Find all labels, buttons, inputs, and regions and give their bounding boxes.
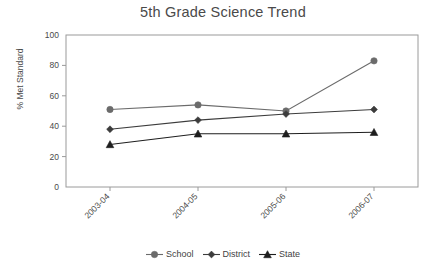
y-axis-ticks: 100806040200 — [45, 30, 66, 192]
circle-marker — [371, 58, 377, 64]
series-layer — [106, 58, 378, 148]
x-tick-label: 2003-04 — [82, 191, 111, 220]
data-point-circle — [151, 251, 157, 257]
y-tick-label: 40 — [50, 121, 60, 131]
legend-swatch-diamond-icon — [203, 250, 220, 259]
series-state — [106, 128, 378, 147]
y-tick-label: 0 — [54, 182, 59, 192]
data-point-diamond — [107, 126, 114, 133]
x-tick-label: 2005-06 — [258, 191, 287, 220]
series-school — [107, 58, 377, 115]
legend-swatch-circle-icon — [146, 250, 163, 259]
plot-frame — [66, 35, 418, 187]
legend-label: District — [223, 249, 251, 259]
chart-container: 5th Grade Science Trend % Met Standard 1… — [0, 0, 446, 273]
x-tick-label: 2006-07 — [346, 191, 375, 220]
legend-item-state[interactable]: State — [259, 249, 300, 259]
plot-area: 100806040200 2003-042004-052005-062006-0… — [0, 0, 446, 273]
y-tick-label: 100 — [45, 30, 59, 40]
y-tick-label: 80 — [50, 60, 60, 70]
circle-marker — [151, 251, 157, 257]
x-axis-tick-labels: 2003-042004-052005-062006-07 — [82, 191, 375, 220]
series-line — [110, 132, 374, 144]
data-point-circle — [107, 106, 113, 112]
y-tick-label: 20 — [50, 152, 60, 162]
x-tick-label: 2004-05 — [170, 191, 199, 220]
diamond-marker — [371, 106, 378, 113]
x-axis-ticks — [110, 187, 374, 191]
legend-item-school[interactable]: School — [146, 249, 194, 259]
legend-label: State — [279, 249, 300, 259]
legend-swatch-triangle-icon — [259, 250, 276, 259]
diamond-marker — [208, 251, 215, 258]
legend-item-district[interactable]: District — [203, 249, 251, 259]
series-line — [110, 109, 374, 129]
series-line — [110, 61, 374, 111]
circle-marker — [195, 102, 201, 108]
y-tick-label: 60 — [50, 91, 60, 101]
data-point-diamond — [195, 117, 202, 124]
chart-legend: SchoolDistrictState — [0, 249, 446, 259]
data-point-circle — [371, 58, 377, 64]
circle-marker — [107, 106, 113, 112]
data-point-circle — [195, 102, 201, 108]
diamond-marker — [195, 117, 202, 124]
diamond-marker — [107, 126, 114, 133]
series-district — [107, 106, 378, 133]
data-point-diamond — [371, 106, 378, 113]
legend-label: School — [166, 249, 194, 259]
data-point-diamond — [208, 251, 215, 258]
